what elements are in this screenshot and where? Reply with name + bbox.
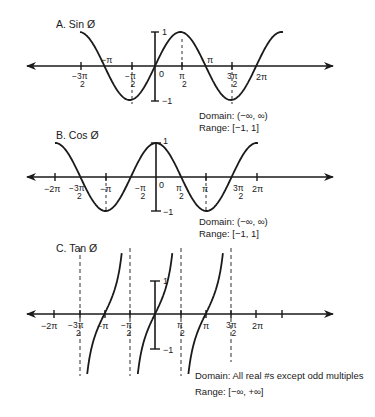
sin-label-neg-pi: −π: [101, 55, 112, 65]
tan-title: C. Tan Ø: [56, 242, 97, 254]
sin-label-pi-2: π2: [177, 72, 187, 88]
tan-label-pi-2: π2: [175, 321, 185, 337]
trig-function-graphs: A. Sin Ø 1 −1 0 −π π 2π −3π2 −π2 π2 3π2 …: [0, 0, 375, 417]
cos-domain-text: Domain: (−∞, ∞): [199, 216, 268, 228]
cos-label-2pi: 2π: [252, 184, 263, 194]
cos-y-min-label: −1: [163, 207, 173, 217]
cos-origin-label: 0: [159, 180, 164, 190]
sin-domain-text: Domain: (−∞, ∞): [199, 110, 268, 122]
cos-label-neg-pi-2: −π2: [135, 184, 146, 200]
cos-title: B. Cos Ø: [56, 129, 99, 141]
sin-title: A. Sin Ø: [56, 18, 95, 30]
sin-label-pi: π: [207, 55, 213, 65]
sin-y-min-label: −1: [162, 96, 172, 106]
cos-label-3pi-2: 3π2: [233, 184, 244, 200]
sin-label-neg-3pi-2: −3π2: [72, 72, 88, 88]
sin-label-neg-pi-2: −π2: [125, 72, 136, 88]
tan-label-pi: π: [203, 321, 209, 331]
cos-label-neg-3pi-2: −3π2: [69, 184, 85, 200]
tan-label-3pi-2: 3π2: [226, 321, 237, 337]
sin-graph: [27, 32, 333, 104]
cos-label-neg-pi: −π: [100, 184, 111, 194]
cos-graph: [27, 143, 333, 213]
tan-y-max-label: 1: [163, 276, 168, 286]
sin-label-3pi-2: 3π2: [227, 72, 238, 88]
cos-label-neg-2pi: −2π: [44, 184, 60, 194]
sin-range-text: Range: [−1, 1]: [199, 122, 259, 134]
cos-label-pi: π: [202, 184, 208, 194]
tan-label-2pi: 2π: [252, 321, 263, 331]
cos-range-text: Range: [−1, 1]: [199, 228, 259, 240]
cos-label-pi-2: π2: [174, 184, 184, 200]
tan-domain-text: Domain: All real #s except odd multiples: [195, 370, 375, 382]
tan-label-neg-2pi: −2π: [41, 321, 57, 331]
tan-label-neg-pi: −π: [97, 321, 108, 331]
tan-y-min-label: −1: [163, 345, 173, 355]
cos-y-max-label: 1: [163, 136, 168, 146]
tan-label-neg-3pi-2: −3π2: [68, 321, 84, 337]
graphs-canvas: [0, 0, 375, 417]
tan-label-neg-pi-2: −π2: [121, 321, 132, 337]
sin-origin-label: 0: [159, 69, 164, 79]
sin-y-max-label: 1: [162, 27, 167, 37]
tan-graph: [27, 248, 333, 376]
tan-range-text: Range: [−∞, +∞]: [195, 386, 263, 398]
sin-label-2pi: 2π: [256, 72, 267, 82]
